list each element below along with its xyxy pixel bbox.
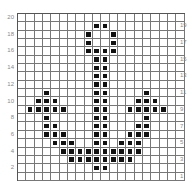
- empty-cell: [160, 173, 168, 181]
- empty-cell: [26, 64, 34, 72]
- empty-cell: [126, 64, 134, 72]
- empty-cell: [118, 122, 126, 130]
- empty-cell: [168, 164, 176, 172]
- empty-cell: [110, 81, 118, 89]
- empty-cell: [68, 31, 76, 39]
- filled-stitch-cell: [93, 97, 101, 105]
- empty-cell: [35, 148, 43, 156]
- filled-stitch-cell: [85, 47, 93, 55]
- empty-cell: [68, 173, 76, 181]
- filled-stitch-cell: [101, 56, 109, 64]
- empty-cell: [60, 114, 68, 122]
- empty-cell: [126, 164, 134, 172]
- empty-cell: [68, 131, 76, 139]
- row-label: 18: [3, 31, 14, 37]
- empty-cell: [35, 81, 43, 89]
- empty-cell: [35, 131, 43, 139]
- filled-stitch-cell: [151, 106, 159, 114]
- empty-cell: [18, 47, 26, 55]
- filled-stitch-cell: [101, 64, 109, 72]
- empty-cell: [51, 72, 59, 80]
- empty-cell: [26, 72, 34, 80]
- empty-cell: [160, 148, 168, 156]
- empty-cell: [126, 39, 134, 47]
- filled-stitch-cell: [101, 114, 109, 122]
- empty-cell: [126, 72, 134, 80]
- empty-cell: [60, 122, 68, 130]
- empty-cell: [60, 14, 68, 22]
- empty-cell: [85, 14, 93, 22]
- filled-stitch-cell: [85, 156, 93, 164]
- filled-stitch-cell: [43, 106, 51, 114]
- filled-stitch-cell: [135, 139, 143, 147]
- filled-stitch-cell: [93, 122, 101, 130]
- empty-cell: [118, 64, 126, 72]
- empty-cell: [68, 47, 76, 55]
- empty-cell: [110, 14, 118, 22]
- empty-cell: [35, 156, 43, 164]
- empty-cell: [51, 64, 59, 72]
- empty-cell: [26, 114, 34, 122]
- empty-cell: [68, 97, 76, 105]
- empty-cell: [51, 156, 59, 164]
- empty-cell: [76, 72, 84, 80]
- empty-cell: [110, 22, 118, 30]
- empty-cell: [43, 14, 51, 22]
- empty-cell: [18, 56, 26, 64]
- row-label: 15: [180, 56, 192, 62]
- empty-cell: [135, 64, 143, 72]
- empty-cell: [143, 156, 151, 164]
- empty-cell: [51, 164, 59, 172]
- empty-cell: [68, 14, 76, 22]
- empty-cell: [43, 81, 51, 89]
- empty-cell: [85, 106, 93, 114]
- row-label: 8: [3, 114, 14, 120]
- empty-cell: [143, 31, 151, 39]
- empty-cell: [160, 72, 168, 80]
- filled-stitch-cell: [85, 148, 93, 156]
- filled-stitch-cell: [101, 148, 109, 156]
- empty-cell: [126, 81, 134, 89]
- empty-cell: [160, 164, 168, 172]
- empty-cell: [176, 97, 184, 105]
- row-label: 20: [3, 14, 14, 20]
- filled-stitch-cell: [126, 148, 134, 156]
- empty-cell: [151, 164, 159, 172]
- empty-cell: [18, 89, 26, 97]
- empty-cell: [35, 56, 43, 64]
- filled-stitch-cell: [60, 106, 68, 114]
- filled-stitch-cell: [51, 106, 59, 114]
- filled-stitch-cell: [110, 39, 118, 47]
- empty-cell: [85, 56, 93, 64]
- empty-cell: [168, 122, 176, 130]
- empty-cell: [176, 31, 184, 39]
- filled-stitch-cell: [43, 114, 51, 122]
- empty-cell: [26, 173, 34, 181]
- empty-cell: [85, 173, 93, 181]
- filled-stitch-cell: [101, 89, 109, 97]
- empty-cell: [43, 173, 51, 181]
- empty-cell: [126, 114, 134, 122]
- empty-cell: [26, 139, 34, 147]
- empty-cell: [85, 122, 93, 130]
- filled-stitch-cell: [60, 148, 68, 156]
- empty-cell: [35, 31, 43, 39]
- empty-cell: [35, 122, 43, 130]
- empty-cell: [76, 131, 84, 139]
- empty-cell: [168, 47, 176, 55]
- empty-cell: [176, 81, 184, 89]
- filled-stitch-cell: [43, 131, 51, 139]
- row-label: 11: [180, 89, 192, 95]
- empty-cell: [135, 31, 143, 39]
- empty-cell: [76, 64, 84, 72]
- empty-cell: [51, 81, 59, 89]
- empty-cell: [85, 139, 93, 147]
- empty-cell: [176, 148, 184, 156]
- empty-cell: [151, 56, 159, 64]
- empty-cell: [160, 31, 168, 39]
- empty-cell: [43, 47, 51, 55]
- empty-cell: [160, 122, 168, 130]
- empty-cell: [68, 56, 76, 64]
- filled-stitch-cell: [160, 106, 168, 114]
- empty-cell: [126, 97, 134, 105]
